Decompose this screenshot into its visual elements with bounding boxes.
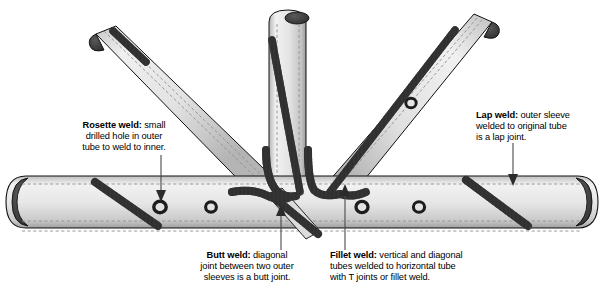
callout-butt-line2: joint between two outer: [176, 261, 318, 272]
callout-fillet-line2: tubes welded to horizontal tube: [330, 261, 502, 272]
rosette-hole-right-diagonal: [406, 98, 416, 108]
callout-fillet-term: Fillet weld:: [330, 250, 377, 260]
rosette-hole-horizontal-3: [356, 201, 368, 212]
weld-bead-right-diagonal-seam-ridges: [330, 30, 455, 192]
callout-butt-line1-rest: diagonal: [251, 250, 288, 260]
callout-rosette-term: Rosette weld:: [83, 120, 142, 130]
callout-lap-weld: Lap weld: outer sleeve welded to origina…: [476, 110, 602, 144]
rosette-hole-horizontal-1: [154, 201, 166, 213]
callout-butt-line3: sleeves is a butt joint.: [176, 272, 318, 283]
callout-rosette-line1-rest: small: [142, 120, 166, 130]
callout-lap-line3: is a lap joint.: [476, 132, 602, 143]
callout-fillet-line3: with T joints or fillet weld.: [330, 272, 502, 283]
vertical-tube-end-cap: [285, 12, 309, 24]
callout-butt-weld: Butt weld: diagonal joint between two ou…: [176, 250, 318, 284]
callout-fillet-line1-rest: vertical and diagonal: [377, 250, 463, 260]
callout-butt-line1: Butt weld: diagonal: [176, 250, 318, 261]
callout-lap-line2: welded to original tube: [476, 121, 602, 132]
rosette-hole-horizontal-2: [206, 202, 217, 212]
weld-types-diagram: Rosette weld: small drilled hole in oute…: [0, 0, 604, 295]
callout-butt-term: Butt weld:: [207, 250, 251, 260]
callout-rosette-weld: Rosette weld: small drilled hole in oute…: [56, 120, 192, 154]
callout-lap-term: Lap weld:: [476, 110, 518, 120]
callout-lap-line1: Lap weld: outer sleeve: [476, 110, 602, 121]
callout-rosette-line1: Rosette weld: small: [56, 120, 192, 131]
callout-rosette-line2: drilled hole in outer: [56, 131, 192, 142]
callout-rosette-line3: tube to weld to inner.: [56, 142, 192, 153]
callout-lap-line1-rest: outer sleeve: [518, 110, 570, 120]
callout-fillet-weld: Fillet weld: vertical and diagonal tubes…: [330, 250, 502, 284]
callout-fillet-line1: Fillet weld: vertical and diagonal: [330, 250, 502, 261]
rosette-hole-horizontal-4: [413, 202, 424, 212]
